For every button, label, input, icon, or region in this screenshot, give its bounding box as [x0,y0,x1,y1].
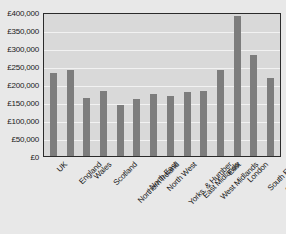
bar-slot [246,14,263,156]
bar-slot [129,14,146,156]
bar-slot [262,14,279,156]
y-axis-tick-label: £300,000 [7,45,39,54]
bar-slot [145,14,162,156]
bar-slot [45,14,62,156]
bar[interactable] [200,91,207,156]
x-axis-tick-label: UK [56,160,70,174]
y-axis-tick-label: £250,000 [7,63,39,72]
bar[interactable] [167,96,174,157]
bar-slot [62,14,79,156]
bar[interactable] [250,55,257,157]
bar-slot [112,14,129,156]
x-axis-tick-label: Scotland [112,160,139,187]
bar-slot [195,14,212,156]
bar-chart: £400,000£350,000£300,000£250,000£200,000… [0,0,286,234]
y-axis-tick-label: £150,000 [7,99,39,108]
bar-slot [95,14,112,156]
bar[interactable] [234,16,241,156]
bar-slot [162,14,179,156]
bar[interactable] [217,70,224,156]
bar-slot [78,14,95,156]
bar[interactable] [117,105,124,157]
y-axis-tick-label: £0 [31,153,40,162]
y-axis-tick-label: £100,000 [7,117,39,126]
bar-slot [229,14,246,156]
bar[interactable] [100,91,107,156]
y-axis-tick-label: £200,000 [7,81,39,90]
y-axis: £400,000£350,000£300,000£250,000£200,000… [0,13,41,157]
bar[interactable] [67,70,74,156]
x-axis: UKEnglandWalesScotlandNorthern IrelandNo… [43,158,281,234]
bar[interactable] [83,98,90,156]
y-axis-tick-label: £400,000 [7,9,39,18]
plot-area [43,13,281,157]
bar[interactable] [133,99,140,156]
bar[interactable] [150,94,157,156]
y-axis-tick-label: £350,000 [7,27,39,36]
bar[interactable] [50,73,57,156]
bars-layer [44,14,280,156]
bar-slot [212,14,229,156]
bar[interactable] [184,92,191,156]
bar-slot [179,14,196,156]
y-axis-tick-label: £50,000 [11,135,39,144]
bar[interactable] [267,78,274,157]
